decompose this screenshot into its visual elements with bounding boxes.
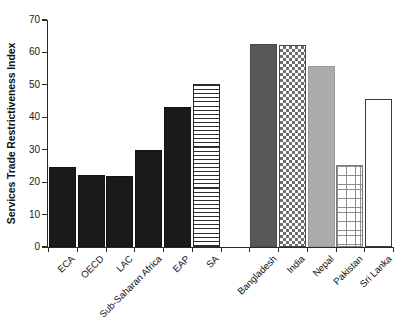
bar-sa [193,84,220,247]
x-tick-mark [106,247,107,252]
bar-sub-saharan-africa [135,150,162,247]
bar-eca [49,167,76,247]
bar-oecd [78,175,105,247]
bar-eap [164,107,191,247]
bar-nepal [308,66,335,247]
x-tick-mark [393,247,394,252]
bar-pakistan [336,165,363,247]
x-tick-mark [278,247,279,252]
bar-chart: Services Trade Restrictiveness Index 010… [0,0,403,331]
bar-bangladesh [250,44,277,247]
x-tick-mark [163,247,164,252]
x-tick-mark [307,247,308,252]
x-tick-mark [336,247,337,252]
bar-lac [106,176,133,247]
x-tick-mark [364,247,365,252]
x-tick-mark [249,247,250,252]
x-tick-mark [77,247,78,252]
x-tick-mark [48,247,49,252]
x-tick-mark [221,247,222,252]
x-tick-mark [134,247,135,252]
bar-india [279,45,306,247]
bar-sri-lanka [365,99,392,247]
x-tick-mark [192,247,193,252]
